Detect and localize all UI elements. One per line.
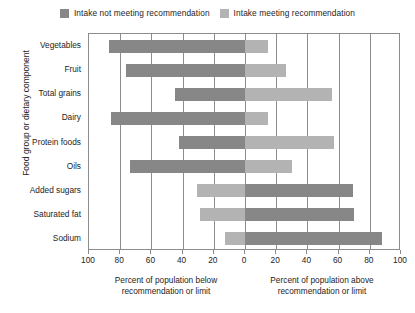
x-axis-tickmark xyxy=(369,250,370,254)
x-axis-tickmark xyxy=(306,250,307,254)
bar-above-sodium xyxy=(245,232,382,245)
bar-below-protein-foods xyxy=(179,136,245,149)
bar-above-added-sugars xyxy=(245,184,353,197)
x-axis-tick-label: 100 xyxy=(81,255,95,265)
x-axis-tick-label: 20 xyxy=(271,255,280,265)
y-axis-label-oils: Oils xyxy=(67,161,81,171)
x-axis-ticks: 10080604020020406080100 xyxy=(0,250,415,264)
bar-below-added-sugars xyxy=(197,184,245,197)
bar-below-oils xyxy=(130,160,245,173)
legend-label: Intake meeting recommendation xyxy=(234,8,355,18)
y-axis-label-sodium: Sodium xyxy=(53,233,81,243)
x-axis-tickmark xyxy=(244,250,245,254)
x-axis-tick-label: 80 xyxy=(115,255,124,265)
legend-meeting: Intake meeting recommendation xyxy=(220,8,355,18)
x-axis-caption-right: Percent of population above recommendati… xyxy=(244,275,400,297)
bar-below-sodium xyxy=(225,232,245,245)
bar-below-vegetables xyxy=(109,40,245,53)
legend-not-meeting: Intake not meeting recommendation xyxy=(60,8,210,18)
legend-swatch-icon xyxy=(220,9,229,18)
bar-above-dairy xyxy=(245,112,268,125)
y-axis-labels: VegetablesFruitTotal grainsDairyProtein … xyxy=(0,33,85,250)
legend-swatch-icon xyxy=(60,9,69,18)
x-axis-caption-left: Percent of population below recommendati… xyxy=(88,275,244,297)
y-axis-label-fruit: Fruit xyxy=(64,64,81,74)
x-axis-tickmark xyxy=(213,250,214,254)
bar-below-total-grains xyxy=(175,88,245,101)
x-axis-tickmark xyxy=(400,250,401,254)
bar-below-fruit xyxy=(126,64,245,77)
x-axis-tick-label: 60 xyxy=(146,255,155,265)
x-axis-tick-label: 20 xyxy=(208,255,217,265)
y-axis-label-added-sugars: Added sugars xyxy=(30,185,81,195)
y-axis-label-vegetables: Vegetables xyxy=(40,40,81,50)
y-axis-label-total-grains: Total grains xyxy=(39,88,81,98)
x-axis-tick-label: 60 xyxy=(333,255,342,265)
bar-below-dairy xyxy=(111,112,245,125)
x-axis-caption-left-line1: Percent of population below xyxy=(88,275,244,286)
y-axis-label-protein-foods: Protein foods xyxy=(32,137,81,147)
chart-root: Intake not meeting recommendationIntake … xyxy=(0,0,415,313)
x-axis-tickmark xyxy=(88,250,89,254)
x-axis-tick-label: 40 xyxy=(177,255,186,265)
x-axis-tickmark xyxy=(338,250,339,254)
x-axis-tickmark xyxy=(182,250,183,254)
chart-legend: Intake not meeting recommendationIntake … xyxy=(0,8,415,18)
bar-above-oils xyxy=(245,160,292,173)
bars-layer xyxy=(89,34,399,249)
x-axis-tickmark xyxy=(275,250,276,254)
y-axis-label-saturated-fat: Saturated fat xyxy=(33,209,81,219)
x-axis-tick-label: 100 xyxy=(393,255,407,265)
plot-area xyxy=(88,33,400,250)
bar-above-vegetables xyxy=(245,40,268,53)
x-axis-caption-left-line2: recommendation or limit xyxy=(88,286,244,297)
bar-above-saturated-fat xyxy=(245,208,354,221)
x-axis-tickmark xyxy=(119,250,120,254)
x-axis-tick-label: 80 xyxy=(364,255,373,265)
y-axis-label-dairy: Dairy xyxy=(62,112,81,122)
x-axis-caption-right-line1: Percent of population above xyxy=(244,275,400,286)
bar-below-saturated-fat xyxy=(200,208,245,221)
x-axis-caption-right-line2: recommendation or limit xyxy=(244,286,400,297)
x-axis-tick-label: 40 xyxy=(302,255,311,265)
x-axis-tick-label: 0 xyxy=(242,255,247,265)
x-axis-tickmark xyxy=(150,250,151,254)
bar-above-fruit xyxy=(245,64,286,77)
legend-label: Intake not meeting recommendation xyxy=(74,8,210,18)
bar-above-protein-foods xyxy=(245,136,334,149)
bar-above-total-grains xyxy=(245,88,332,101)
